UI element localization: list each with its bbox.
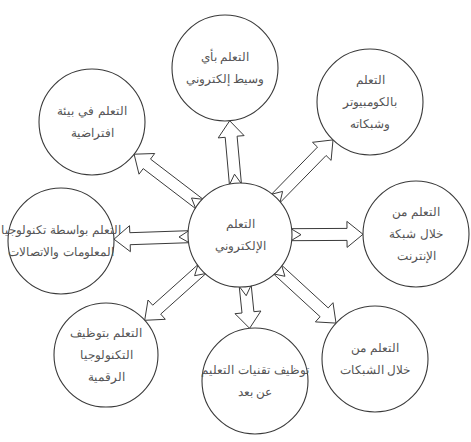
concept-diagram [0, 0, 471, 442]
center-node-e-learning [188, 183, 292, 287]
node-digital-technology [54, 303, 158, 407]
node-computer-and-networks [317, 49, 423, 155]
node-distance-education-tech [202, 328, 308, 434]
arrow-ict [114, 226, 192, 252]
circles-layer [8, 15, 469, 434]
arrow-any-electronic-medium [218, 121, 244, 188]
node-networks [322, 306, 428, 412]
node-ict [8, 188, 114, 294]
node-internet [363, 181, 469, 287]
node-virtual-environment [39, 69, 145, 175]
node-any-electronic-medium [172, 15, 278, 121]
